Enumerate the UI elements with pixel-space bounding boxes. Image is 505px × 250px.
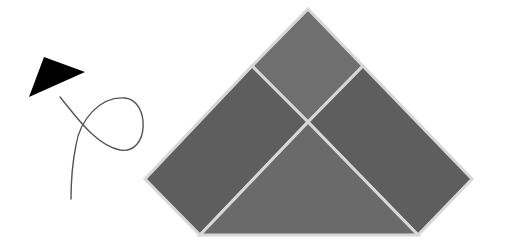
diagram-canvas — [0, 0, 505, 250]
